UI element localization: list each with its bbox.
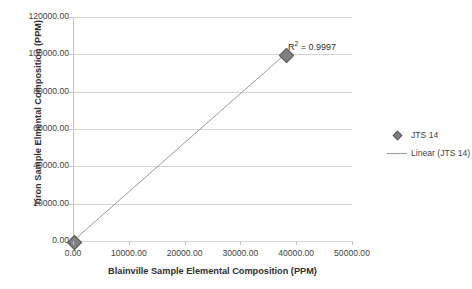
legend-key-line <box>386 153 408 154</box>
y-axis-tick-label: 0.00 <box>3 235 69 245</box>
x-axis-tick-mark <box>240 241 241 245</box>
y-axis-tick-labels: 0.0020000.0040000.0060000.0080000.001000… <box>0 0 69 289</box>
x-axis-tick-mark <box>296 241 297 245</box>
y-axis-tick-label: 120000.00 <box>3 11 69 21</box>
y-axis-tick-label: 20000.00 <box>3 198 69 208</box>
r-squared-annotation: R2 = 0.9997 <box>288 40 336 52</box>
chart-container: Tiron Sample Elmental Composition (PPM) … <box>0 0 472 289</box>
chart-legend: JTS 14Linear (JTS 14) <box>386 126 472 162</box>
x-axis-title: Blainville Sample Elemental Composition … <box>73 266 352 276</box>
x-axis-tick-mark <box>129 241 130 245</box>
diamond-marker-icon <box>392 130 402 140</box>
line-marker-icon <box>387 153 407 154</box>
gridline <box>73 241 352 242</box>
y-axis-tick-label: 100000.00 <box>3 48 69 58</box>
y-axis-tick-label: 60000.00 <box>3 123 69 133</box>
chart-title <box>60 0 360 2</box>
legend-item-label: JTS 14 <box>408 130 438 140</box>
legend-item[interactable]: JTS 14 <box>386 126 472 144</box>
trendline <box>73 54 285 241</box>
x-axis-tick-mark <box>73 241 74 245</box>
legend-item[interactable]: Linear (JTS 14) <box>386 144 472 162</box>
x-axis-tick-label: 50000.00 <box>317 248 387 258</box>
legend-item-label: Linear (JTS 14) <box>408 148 470 158</box>
r-squared-value: = 0.9997 <box>298 42 336 52</box>
y-axis-tick-label: 80000.00 <box>3 86 69 96</box>
legend-key-diamond <box>386 132 408 139</box>
x-axis-tick-mark <box>185 241 186 245</box>
x-axis-tick-mark <box>352 241 353 245</box>
y-axis-tick-label: 40000.00 <box>3 160 69 170</box>
